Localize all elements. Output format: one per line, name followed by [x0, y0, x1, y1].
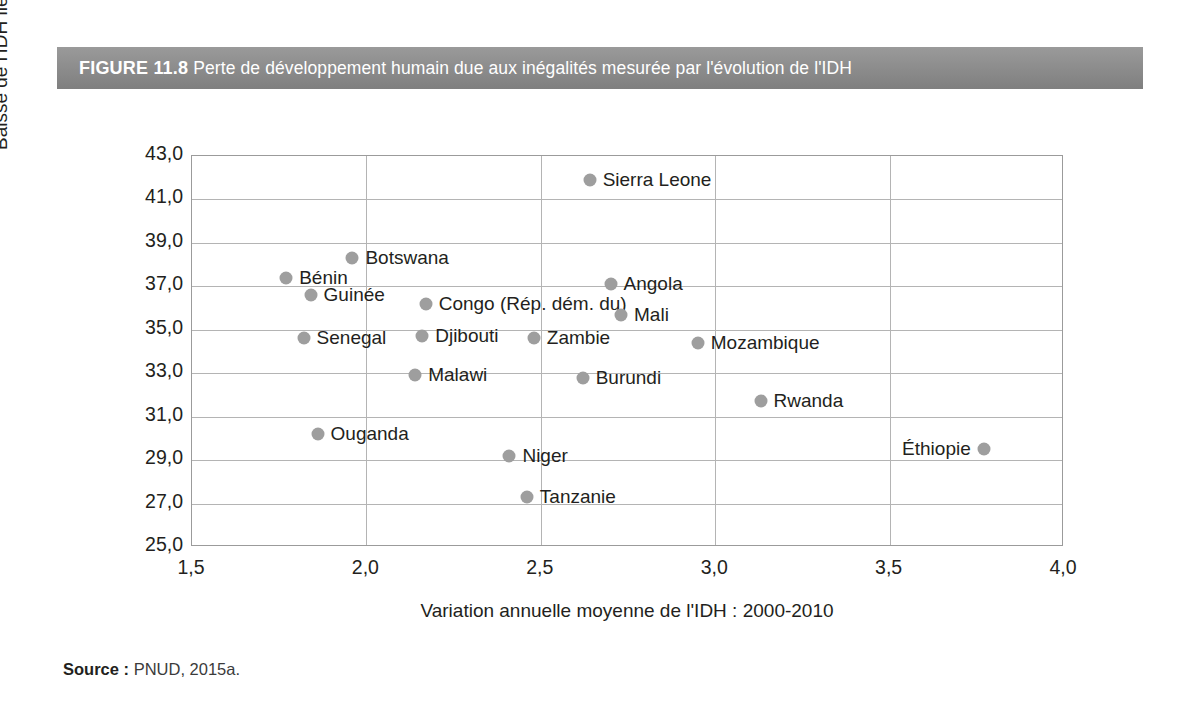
- figure-header-bar: FIGURE 11.8 Perte de développement humai…: [57, 47, 1143, 89]
- data-point[interactable]: [346, 252, 359, 265]
- data-point-label: Guinée: [324, 284, 385, 306]
- data-point-label: Malawi: [428, 364, 487, 386]
- data-point-label: Djibouti: [435, 325, 498, 347]
- data-point[interactable]: [280, 271, 293, 284]
- data-point[interactable]: [311, 428, 324, 441]
- data-point-label: Zambie: [547, 327, 610, 349]
- data-point-label: Ouganda: [331, 423, 409, 445]
- data-point[interactable]: [691, 336, 704, 349]
- gridline-vertical: [890, 156, 891, 545]
- data-point-label: Sierra Leone: [603, 169, 712, 191]
- data-point[interactable]: [604, 278, 617, 291]
- data-point[interactable]: [503, 449, 516, 462]
- y-tick-label: 27,0: [103, 490, 183, 513]
- data-point[interactable]: [416, 330, 429, 343]
- plot-area: Sierra LeoneBotswanaBéninAngolaGuinéeCon…: [191, 155, 1063, 546]
- data-point[interactable]: [304, 289, 317, 302]
- x-tick-label: 3,0: [679, 556, 749, 579]
- data-point-label: Éthiopie: [902, 438, 971, 460]
- gridline-horizontal: [192, 460, 1062, 461]
- source-label: Source :: [63, 660, 129, 678]
- y-tick-label: 29,0: [103, 446, 183, 469]
- source-note: Source : PNUD, 2015a.: [63, 660, 240, 679]
- x-axis-title: Variation annuelle moyenne de l'IDH : 20…: [191, 600, 1063, 622]
- data-point-label: Rwanda: [774, 390, 844, 412]
- data-point-label: Congo (Rép. dém. du): [439, 293, 627, 315]
- y-tick-label: 43,0: [103, 142, 183, 165]
- data-point[interactable]: [527, 332, 540, 345]
- data-point-label: Mali: [634, 304, 669, 326]
- figure-title: Perte de développement humain due aux in…: [193, 58, 852, 78]
- data-point[interactable]: [754, 395, 767, 408]
- y-tick-label: 35,0: [103, 316, 183, 339]
- data-point[interactable]: [576, 371, 589, 384]
- data-point[interactable]: [419, 297, 432, 310]
- data-point[interactable]: [409, 369, 422, 382]
- figure-container: FIGURE 11.8 Perte de développement humai…: [0, 0, 1191, 717]
- data-point[interactable]: [583, 173, 596, 186]
- gridline-vertical: [366, 156, 367, 545]
- data-point[interactable]: [297, 332, 310, 345]
- x-tick-label: 1,5: [156, 556, 226, 579]
- x-tick-label: 3,5: [854, 556, 924, 579]
- data-point-label: Mozambique: [711, 332, 820, 354]
- data-point[interactable]: [615, 308, 628, 321]
- data-point-label: Senegal: [317, 327, 387, 349]
- gridline-horizontal: [192, 243, 1062, 244]
- gridline-horizontal: [192, 417, 1062, 418]
- x-tick-label: 2,5: [505, 556, 575, 579]
- data-point-label: Botswana: [365, 247, 448, 269]
- source-value: PNUD, 2015a.: [134, 660, 240, 678]
- data-point[interactable]: [520, 491, 533, 504]
- y-tick-label: 31,0: [103, 403, 183, 426]
- y-axis-title: Baisse de l'IDH liée aux inégalités (%): [0, 0, 12, 150]
- figure-header-text: FIGURE 11.8 Perte de développement humai…: [57, 58, 852, 79]
- data-point-label: Angola: [624, 273, 683, 295]
- data-point-label: Niger: [522, 445, 567, 467]
- figure-number: FIGURE 11.8: [79, 58, 188, 78]
- x-tick-label: 2,0: [330, 556, 400, 579]
- data-point-label: Tanzanie: [540, 486, 616, 508]
- data-point-label: Burundi: [596, 367, 662, 389]
- gridline-horizontal: [192, 199, 1062, 200]
- y-tick-label: 41,0: [103, 185, 183, 208]
- x-tick-label: 4,0: [1028, 556, 1098, 579]
- y-tick-label: 25,0: [103, 533, 183, 556]
- y-tick-label: 33,0: [103, 359, 183, 382]
- gridline-horizontal: [192, 504, 1062, 505]
- y-tick-label: 37,0: [103, 272, 183, 295]
- data-point[interactable]: [977, 443, 990, 456]
- y-tick-label: 39,0: [103, 229, 183, 252]
